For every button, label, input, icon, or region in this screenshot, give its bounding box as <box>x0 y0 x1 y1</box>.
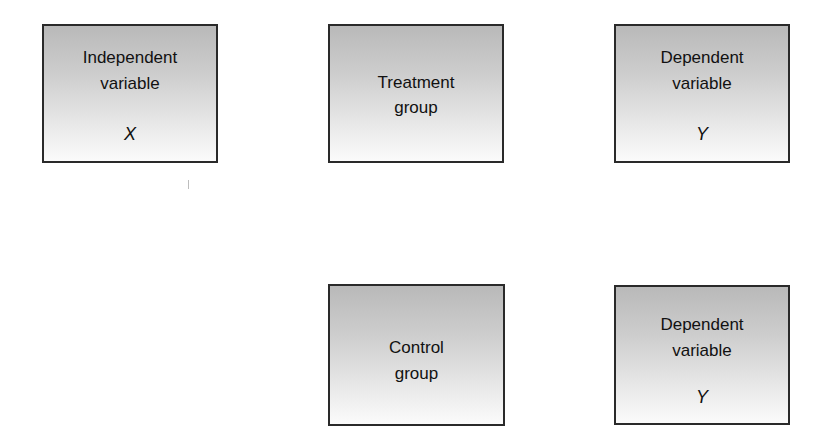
control-group-box: Control group <box>328 284 505 426</box>
treatment-group-label-line1: Treatment <box>330 71 502 95</box>
dependent-variable-treatment-box: Dependent variable Y <box>614 24 790 163</box>
treatment-group-label-line2: group <box>330 96 502 120</box>
dependent-variable-control-label-line1: Dependent <box>616 313 788 337</box>
independent-variable-label-line1: Independent <box>44 46 216 70</box>
dependent-variable-control-label-line2: variable <box>616 339 788 363</box>
independent-variable-box: Independent variable X <box>42 24 218 163</box>
treatment-group-box: Treatment group <box>328 24 504 163</box>
independent-variable-label-line2: variable <box>44 72 216 96</box>
dependent-variable-treatment-label-line1: Dependent <box>616 46 788 70</box>
dependent-variable-treatment-label-line2: variable <box>616 72 788 96</box>
control-group-label-line2: group <box>330 362 503 386</box>
dependent-variable-control-box: Dependent variable Y <box>614 285 790 425</box>
control-group-label-line1: Control <box>330 336 503 360</box>
scan-artifact-mark <box>188 180 189 189</box>
dependent-variable-control-symbol: Y <box>616 387 788 408</box>
independent-variable-symbol: X <box>44 124 216 145</box>
dependent-variable-treatment-symbol: Y <box>616 124 788 145</box>
